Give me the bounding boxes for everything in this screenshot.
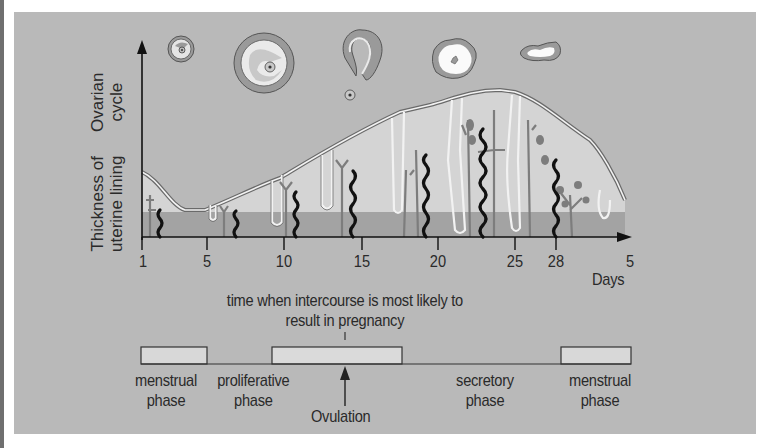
- fertile-window-note: time when intercourse is most likely to …: [203, 291, 487, 331]
- x-axis-ticks: [142, 237, 556, 250]
- tick-label-28: 28: [543, 252, 569, 272]
- tick-label-15: 15: [349, 252, 375, 272]
- y-axis-arrow-icon: [137, 40, 147, 54]
- tick-label-1: 1: [130, 252, 156, 272]
- ovulation-arrow-icon: [340, 366, 350, 380]
- tick-label-5: 5: [194, 252, 220, 272]
- days-axis-label: Days: [592, 270, 624, 290]
- menstrual-phase-bar-2: [561, 347, 631, 364]
- phase-label-proliferative: proliferative phase: [206, 371, 301, 411]
- tick-label-25: 25: [502, 252, 528, 272]
- fertile-window-bar: [272, 347, 402, 364]
- tick-label-5-next: 5: [617, 252, 643, 272]
- phase-timeline: [141, 347, 631, 364]
- corpus-albicans-icon: [520, 42, 560, 61]
- tick-label-20: 20: [425, 252, 451, 272]
- corpus-luteum-icon: [432, 39, 476, 79]
- mature-follicle-icon: [234, 33, 294, 93]
- phase-label-menstrual: menstrual phase: [123, 371, 209, 411]
- ovarian-cycle-label: Ovarian cycle: [88, 72, 126, 132]
- menstrual-phase-bar: [141, 347, 207, 364]
- phase-label-menstrual-next: menstrual phase: [557, 371, 643, 411]
- uterine-lining-label: Thickness of uterine lining: [88, 156, 126, 252]
- primary-follicle-icon: [168, 36, 194, 62]
- ovulation-label: Ovulation: [311, 407, 370, 427]
- tick-label-10: 10: [271, 252, 297, 272]
- ruptured-follicle-icon: [343, 30, 382, 100]
- phase-label-secretory: secretory phase: [442, 371, 528, 411]
